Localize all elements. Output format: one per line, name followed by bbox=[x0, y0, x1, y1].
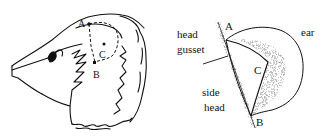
point-c-dot bbox=[103, 43, 106, 46]
label-head-gusset-2: gusset bbox=[177, 43, 205, 55]
label-side-head-1: side bbox=[202, 86, 220, 98]
ear-placement-diagram: A C B A C B head gusset side head ear bbox=[0, 0, 326, 140]
ear-shape bbox=[226, 27, 303, 116]
gusset-pointer bbox=[203, 56, 228, 64]
label-c-left: C bbox=[99, 49, 106, 60]
label-a-left: A bbox=[78, 18, 86, 29]
label-b-left: B bbox=[93, 69, 100, 80]
label-b-right: B bbox=[256, 116, 263, 128]
label-c-right: C bbox=[254, 64, 261, 76]
label-a-right: A bbox=[225, 20, 233, 32]
label-ear: ear bbox=[301, 26, 315, 38]
point-a-dot bbox=[87, 22, 91, 26]
label-head-gusset-1: head bbox=[177, 28, 198, 40]
dog-head-drawing bbox=[12, 14, 146, 130]
point-b-dot bbox=[93, 61, 96, 64]
label-side-head-2: head bbox=[204, 101, 225, 113]
